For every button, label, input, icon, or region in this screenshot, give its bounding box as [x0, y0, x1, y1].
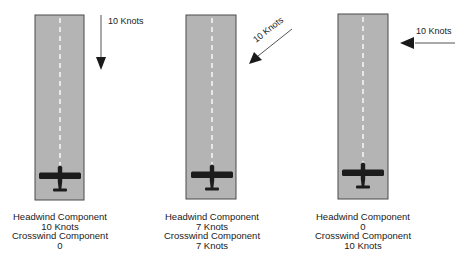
caption-crosswind: Headwind Component 0 Crosswind Component… — [298, 212, 428, 250]
caption-diagonal: Headwind Component 7 Knots Crosswind Com… — [147, 212, 277, 250]
wind-speed-label: 10 Knots — [416, 26, 452, 36]
wind-speed-label: 10 Knots — [251, 15, 286, 45]
panel-headwind: 10 Knots — [35, 15, 144, 200]
caption-headwind: Headwind Component 10 Knots Crosswind Co… — [0, 212, 125, 250]
crosswind-value: 7 Knots — [147, 241, 277, 251]
wind-arrow-icon — [96, 15, 106, 70]
panel-crosswind: 10 Knots — [338, 14, 455, 199]
wind-speed-label: 10 Knots — [108, 16, 144, 26]
panel-diagonal: 10 Knots — [186, 15, 292, 199]
crosswind-value: 0 — [0, 241, 125, 251]
wind-arrow-icon — [400, 37, 455, 49]
crosswind-value: 10 Knots — [298, 241, 428, 251]
